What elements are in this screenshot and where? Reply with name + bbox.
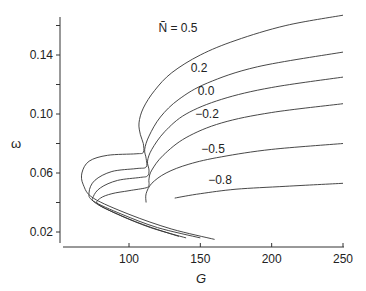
curve-0-8 (175, 183, 343, 198)
x-axis-title: G (196, 271, 206, 286)
y-axis-title: ω (11, 136, 21, 151)
x-tick-label: 150 (190, 252, 210, 266)
curve-0-5 (81, 15, 343, 239)
curve-label: −0.2 (195, 107, 219, 121)
bifurcation-chart: 0.020.060.100.14 ω 100150200250 G Ñ = 0.… (0, 0, 366, 291)
x-axis: 100150200250 G (63, 243, 353, 286)
x-tick-label: 200 (262, 252, 282, 266)
curve-label: 0.0 (198, 84, 215, 98)
curve-label: 0.2 (191, 61, 208, 75)
curve-0-5 (146, 144, 343, 203)
y-tick-label: 0.02 (30, 225, 54, 239)
x-tick-label: 250 (333, 252, 353, 266)
y-ticks: 0.020.060.100.14 (30, 26, 60, 240)
curve-label: −0.5 (201, 142, 225, 156)
curve-label: −0.8 (208, 173, 232, 187)
x-ticks: 100150200250 (119, 243, 353, 266)
curves (81, 15, 343, 239)
y-tick-label: 0.10 (30, 107, 54, 121)
y-axis: 0.020.060.100.14 ω (11, 17, 60, 243)
y-tick-label: 0.14 (30, 48, 54, 62)
y-tick-label: 0.06 (30, 166, 54, 180)
curve-label: Ñ = 0.5 (158, 21, 197, 35)
x-tick-label: 100 (119, 252, 139, 266)
